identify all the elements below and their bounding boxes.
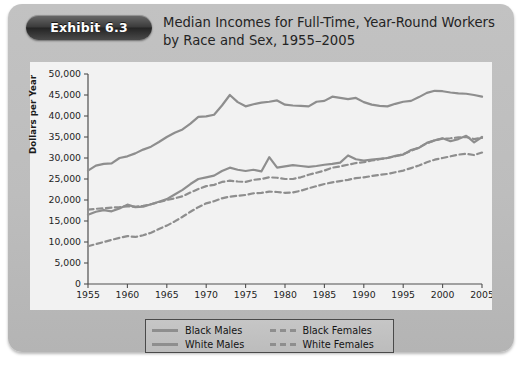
figure-title: Median Incomes for Full-Time, Year-Round… [163, 14, 509, 49]
y-axis-tick-label: 25,000 [48, 173, 81, 184]
x-axis-tick-label: 1980 [273, 289, 297, 300]
y-axis-tick-label: 30,000 [48, 152, 81, 163]
legend-row: White Males White Females [152, 337, 387, 351]
legend-line-swatch-dashed [270, 329, 296, 332]
y-axis-tick-label: 40,000 [48, 110, 81, 121]
legend-item-white-males: White Males [152, 339, 270, 350]
chart-legend: Black Males Black Females White Males Wh… [145, 319, 394, 353]
line-chart: 05,00010,00015,00020,00025,00030,00035,0… [30, 62, 492, 310]
x-axis-tick-label: 1990 [352, 289, 376, 300]
exhibit-badge-label: Exhibit 6.3 [50, 20, 128, 35]
x-axis-tick-label: 1995 [391, 289, 415, 300]
exhibit-figure-card: Exhibit 6.3 Median Incomes for Full-Time… [8, 4, 514, 352]
legend-item-black-males: Black Males [152, 325, 270, 336]
legend-label: White Females [303, 339, 374, 350]
legend-line-swatch-dashed [270, 343, 296, 346]
legend-line-swatch-solid [152, 329, 178, 332]
legend-item-black-females: Black Females [270, 325, 388, 336]
y-axis-tick-label: 35,000 [48, 131, 81, 142]
legend-label: Black Females [303, 325, 372, 336]
y-axis-tick-label: 0 [75, 278, 81, 289]
y-axis-tick-label: 20,000 [48, 194, 81, 205]
y-axis-tick-label: 50,000 [48, 68, 81, 79]
legend-line-swatch-solid [152, 343, 178, 346]
y-axis-tick-label: 15,000 [48, 215, 81, 226]
x-axis-tick-label: 2005 [470, 289, 492, 300]
x-axis-tick-label: 1985 [313, 289, 337, 300]
legend-row: Black Males Black Females [152, 323, 387, 337]
legend-label: White Males [185, 339, 244, 350]
y-axis-tick-label: 45,000 [48, 89, 81, 100]
x-axis-tick-label: 1975 [234, 289, 258, 300]
chart-plot-area: Dollars per Year 05,00010,00015,00020,00… [30, 62, 492, 310]
legend-item-white-females: White Females [270, 339, 388, 350]
x-axis-tick-label: 1970 [194, 289, 218, 300]
x-axis-tick-label: 1960 [116, 289, 140, 300]
y-axis-tick-label: 5,000 [54, 257, 81, 268]
x-axis-tick-label: 1965 [155, 289, 179, 300]
x-axis-tick-label: 2000 [431, 289, 455, 300]
x-axis-tick-label: 1955 [76, 289, 100, 300]
exhibit-badge: Exhibit 6.3 [26, 15, 152, 40]
legend-label: Black Males [185, 325, 242, 336]
y-axis-title: Dollars per Year [28, 75, 38, 154]
y-axis-tick-label: 10,000 [48, 236, 81, 247]
plot-background [30, 62, 492, 310]
